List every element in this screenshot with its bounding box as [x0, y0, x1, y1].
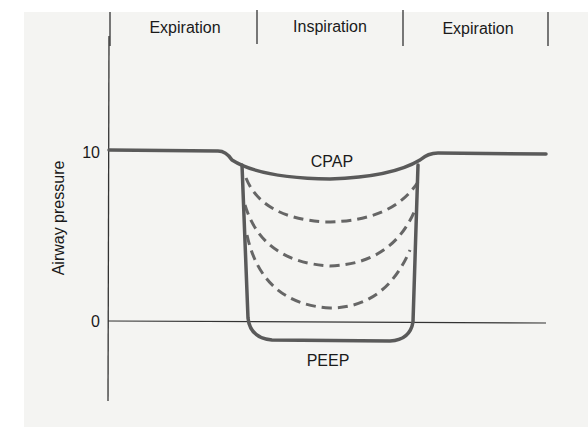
cpap-label: CPAP	[311, 153, 353, 170]
y-axis-label: Airway pressure	[50, 161, 67, 276]
phase-label-expiration-1: Expiration	[149, 19, 220, 36]
dashed-curve-2	[245, 205, 415, 266]
pressure-chart: Expiration Inspiration Expiration 10 0 A…	[0, 0, 588, 439]
dashed-curve-1	[246, 178, 418, 222]
phase-label-expiration-2: Expiration	[442, 20, 513, 37]
zero-baseline	[108, 321, 546, 323]
y-axis	[108, 36, 109, 401]
y-tick-0: 0	[91, 313, 100, 330]
peep-label: PEEP	[307, 352, 350, 369]
phase-label-inspiration: Inspiration	[293, 18, 367, 35]
peep-curve	[242, 165, 418, 341]
y-tick-10: 10	[82, 144, 100, 161]
